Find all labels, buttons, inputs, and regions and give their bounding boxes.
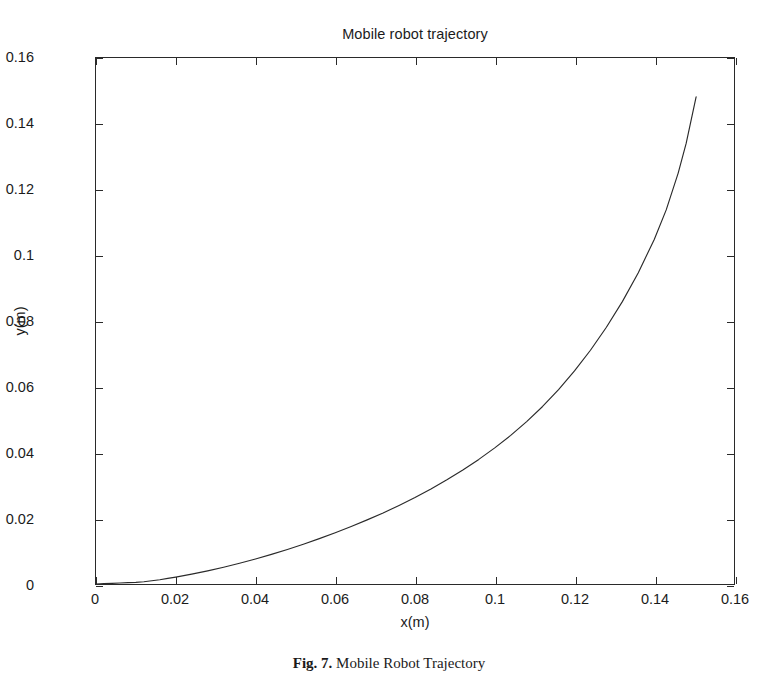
y-tick-mark bbox=[96, 388, 103, 389]
x-tick-label: 0.06 bbox=[321, 591, 349, 607]
x-tick-label: 0 bbox=[91, 591, 99, 607]
y-tick-mark bbox=[727, 586, 734, 587]
figure-caption-text: Mobile Robot Trajectory bbox=[336, 655, 485, 671]
y-tick-label: 0.06 bbox=[6, 379, 34, 395]
y-tick-label: 0.14 bbox=[6, 115, 34, 131]
x-tick-mark bbox=[336, 58, 337, 65]
x-tick-mark bbox=[736, 58, 737, 65]
x-tick-mark bbox=[576, 58, 577, 65]
y-tick-mark bbox=[727, 256, 734, 257]
y-tick-mark bbox=[96, 322, 103, 323]
x-tick-mark bbox=[496, 577, 497, 584]
y-tick-mark bbox=[96, 190, 103, 191]
y-tick-mark bbox=[96, 256, 103, 257]
x-tick-mark bbox=[416, 577, 417, 584]
x-tick-mark bbox=[496, 58, 497, 65]
x-tick-mark bbox=[736, 577, 737, 584]
y-tick-mark bbox=[96, 520, 103, 521]
y-tick-label: 0.1 bbox=[14, 247, 34, 263]
x-tick-mark bbox=[96, 577, 97, 584]
x-tick-mark bbox=[656, 58, 657, 65]
y-tick-label: 0.16 bbox=[6, 49, 34, 65]
x-tick-mark bbox=[656, 577, 657, 584]
x-tick-label: 0.16 bbox=[721, 591, 749, 607]
x-tick-mark bbox=[576, 577, 577, 584]
x-tick-label: 0.12 bbox=[561, 591, 589, 607]
y-tick-mark bbox=[727, 124, 734, 125]
figure-caption-number: Fig. 7. bbox=[293, 655, 333, 671]
figure-caption: Fig. 7. Mobile Robot Trajectory bbox=[0, 655, 778, 672]
plot-area bbox=[95, 57, 735, 585]
x-tick-label: 0.14 bbox=[641, 591, 669, 607]
y-tick-mark bbox=[727, 58, 734, 59]
y-tick-mark bbox=[96, 586, 103, 587]
x-tick-label: 0.1 bbox=[485, 591, 505, 607]
y-tick-mark bbox=[727, 454, 734, 455]
y-tick-mark bbox=[727, 322, 734, 323]
y-tick-label: 0.04 bbox=[6, 445, 34, 461]
x-tick-mark bbox=[176, 58, 177, 65]
x-tick-mark bbox=[416, 58, 417, 65]
x-tick-mark bbox=[176, 577, 177, 584]
y-tick-label: 0 bbox=[26, 577, 34, 593]
y-tick-label: 0.02 bbox=[6, 511, 34, 527]
trajectory-plot-svg bbox=[96, 58, 734, 584]
y-tick-label: 0.12 bbox=[6, 181, 34, 197]
x-tick-label: 0.08 bbox=[401, 591, 429, 607]
x-tick-mark bbox=[256, 577, 257, 584]
y-tick-mark bbox=[96, 58, 103, 59]
x-axis-label: x(m) bbox=[95, 614, 735, 630]
chart-title: Mobile robot trajectory bbox=[95, 26, 735, 42]
y-tick-mark bbox=[727, 190, 734, 191]
x-tick-mark bbox=[96, 58, 97, 65]
y-tick-mark bbox=[96, 124, 103, 125]
y-tick-mark bbox=[96, 454, 103, 455]
y-tick-mark bbox=[727, 520, 734, 521]
x-tick-label: 0.02 bbox=[161, 591, 189, 607]
x-tick-label: 0.04 bbox=[241, 591, 269, 607]
x-tick-mark bbox=[256, 58, 257, 65]
y-tick-mark bbox=[727, 388, 734, 389]
y-tick-label: 0.08 bbox=[6, 313, 34, 329]
trajectory-line-series bbox=[96, 97, 696, 584]
figure-container: Mobile robot trajectory x(m) y(m) Fig. 7… bbox=[0, 0, 778, 673]
x-tick-mark bbox=[336, 577, 337, 584]
